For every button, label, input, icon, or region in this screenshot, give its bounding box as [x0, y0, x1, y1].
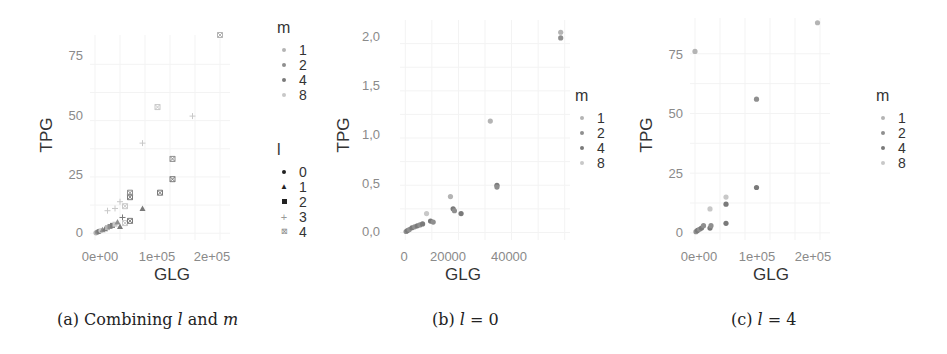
legend-item: 1	[575, 110, 605, 125]
data-point	[112, 205, 118, 211]
data-point	[701, 223, 706, 228]
y-tick: 0,0	[340, 225, 380, 239]
data-point	[128, 218, 133, 223]
legend-item: 2	[277, 57, 307, 72]
legend-item: +3	[277, 209, 307, 224]
y-tick: 0,5	[340, 177, 380, 191]
legend-item: ▲1	[277, 179, 307, 194]
caption-c: (c) l = 4	[731, 310, 796, 329]
y-tick: 0	[43, 226, 83, 240]
y-tick: 75	[643, 48, 683, 62]
dot-icon	[277, 48, 291, 52]
data-point	[448, 194, 453, 199]
plus-icon: +	[277, 211, 291, 223]
data-point	[431, 219, 436, 224]
data-point	[754, 185, 759, 190]
legend-item: 4	[277, 72, 307, 87]
legend-m: m 1 2 4 8	[277, 20, 307, 102]
y-tick: 25	[643, 167, 683, 181]
legend-item: 2	[575, 125, 605, 140]
legend-item: 4	[876, 140, 906, 155]
data-point	[723, 202, 728, 207]
data-point	[692, 49, 697, 54]
legend-m: m 1 2 4 8	[575, 88, 605, 170]
dot-icon	[876, 146, 890, 150]
data-point	[708, 223, 713, 228]
legend-item: 8	[876, 155, 906, 170]
data-point	[488, 118, 493, 123]
legend-title: l	[277, 142, 307, 158]
y-axis-title: TPG	[637, 105, 657, 165]
x-axis-title: GLG	[132, 265, 212, 285]
legend-item: 8	[277, 87, 307, 102]
caption-a: (a) Combining l and m	[57, 310, 238, 329]
data-point	[815, 20, 820, 25]
data-point	[452, 208, 457, 213]
dot-icon	[575, 116, 589, 120]
data-point	[424, 211, 429, 216]
data-point	[155, 105, 160, 110]
triangle-icon: ▲	[277, 182, 291, 191]
y-tick: 75	[43, 49, 83, 63]
data-point	[494, 185, 499, 190]
data-point	[723, 221, 728, 226]
legend-item: 8	[575, 155, 605, 170]
data-point	[170, 177, 175, 182]
legend-title: m	[277, 20, 307, 36]
y-axis-title: TPG	[37, 105, 57, 165]
dot-icon	[575, 161, 589, 165]
x-tick: 20000	[413, 250, 483, 264]
legend-l: l 0 ▲1 2 +3 ⊠4	[277, 142, 307, 239]
x-tick: 2e+05	[177, 250, 247, 264]
caption-b: (b) l = 0	[432, 310, 499, 329]
x-tick: 40000	[474, 250, 544, 264]
y-tick: 25	[43, 168, 83, 182]
dot-icon	[277, 93, 291, 97]
y-tick: 2,0	[340, 30, 380, 44]
legend-item: 1	[277, 42, 307, 57]
panel-a: 75 50 25 0 0e+00 1e+05 2e+05 GLG TPG m 1…	[0, 0, 320, 300]
data-point	[420, 221, 425, 226]
data-point	[158, 190, 163, 195]
x-axis-title: GLG	[423, 265, 503, 285]
y-tick: 1,5	[340, 79, 380, 93]
legend-item: 4	[575, 140, 605, 155]
x-axis-title: GLG	[731, 265, 811, 285]
dot-icon	[575, 131, 589, 135]
legend-item: 2	[876, 125, 906, 140]
legend-title: m	[876, 88, 906, 104]
circle-icon	[277, 170, 291, 174]
data-point	[558, 35, 563, 40]
legend-item: 2	[277, 194, 307, 209]
y-tick: 0	[643, 226, 683, 240]
dot-icon	[277, 78, 291, 82]
data-point	[754, 97, 759, 102]
panel-c: 75 50 25 0 0e+00 1e+05 2e+05 GLG TPG m 1…	[630, 0, 947, 300]
legend-item: 1	[876, 110, 906, 125]
legend-title: m	[575, 88, 605, 104]
data-point	[707, 206, 712, 211]
data-point	[558, 30, 563, 35]
square-icon	[277, 199, 291, 204]
data-point	[105, 208, 111, 214]
x-tick: 2e+05	[778, 250, 848, 264]
y-axis-title: TPG	[334, 105, 354, 165]
data-point	[458, 211, 463, 216]
boxcross-icon: ⊠	[277, 227, 291, 236]
data-point	[723, 194, 728, 199]
dot-icon	[876, 116, 890, 120]
data-point	[123, 204, 128, 209]
data-point	[123, 221, 128, 226]
legend-item: ⊠4	[277, 224, 307, 239]
data-point	[170, 156, 175, 161]
panel-b: 2,0 1,5 1,0 0,5 0,0 0 20000 40000 GLG TP…	[320, 0, 630, 300]
dot-icon	[575, 146, 589, 150]
dot-icon	[876, 161, 890, 165]
legend-m: m 1 2 4 8	[876, 88, 906, 170]
dot-icon	[876, 131, 890, 135]
dot-icon	[277, 63, 291, 67]
legend-item: 0	[277, 164, 307, 179]
